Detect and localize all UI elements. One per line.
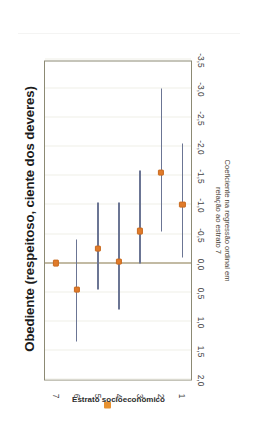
error-bar <box>118 202 119 310</box>
y-axis-tick-label: -1,0 <box>196 198 206 212</box>
y-axis-tick-label: 1,5 <box>196 345 206 357</box>
x-axis-tick-label: 1 <box>177 382 187 398</box>
gridline <box>45 58 191 59</box>
y-axis-tick-label: 0,0 <box>196 258 206 270</box>
y-axis-tick-label: -2,5 <box>196 111 206 125</box>
plot-area: 1234567 <box>44 60 192 380</box>
y-axis-title-line2: relação ao estrato 7 <box>214 60 223 380</box>
y-axis-tick-label: 1,0 <box>196 316 206 328</box>
data-point <box>95 245 101 251</box>
data-point <box>116 258 122 264</box>
error-bar <box>182 143 183 256</box>
y-axis-tick-label: -0,5 <box>196 227 206 241</box>
data-point <box>52 260 58 266</box>
error-bar <box>139 170 140 263</box>
x-axis-tick-label: 2 <box>156 382 166 398</box>
data-point <box>179 201 185 207</box>
y-axis-tick-label: -3,0 <box>196 82 206 96</box>
chart-stage: Obediente (respeitoso, ciente dos devere… <box>18 33 240 404</box>
x-axis-tick-label: 3 <box>135 382 145 398</box>
y-axis-tick-label: 0,5 <box>196 287 206 299</box>
error-bar <box>161 88 162 231</box>
x-axis-tick-label: 7 <box>51 382 61 398</box>
chart-title: Obediente (respeitoso, ciente dos devere… <box>22 33 37 404</box>
data-point <box>137 228 143 234</box>
data-point <box>158 169 164 175</box>
x-axis-tick-label: 4 <box>114 382 124 398</box>
x-axis-tick-label: 5 <box>93 382 103 398</box>
y-axis-tick-label: -3,5 <box>196 53 206 67</box>
y-axis-tick-label: -2,0 <box>196 140 206 154</box>
x-axis-tick-label: 6 <box>72 382 82 398</box>
y-axis-tick-label: -1,5 <box>196 169 206 183</box>
data-layer <box>45 61 191 379</box>
y-axis-title: Coeficiente na regressão ordinal em rela… <box>214 60 231 380</box>
y-axis-tick-label: 2,0 <box>196 374 206 386</box>
chart-card: Obediente (respeitoso, ciente dos devere… <box>18 33 240 404</box>
y-axis-title-line1: Coeficiente na regressão ordinal em <box>223 60 232 380</box>
data-point <box>74 286 80 292</box>
